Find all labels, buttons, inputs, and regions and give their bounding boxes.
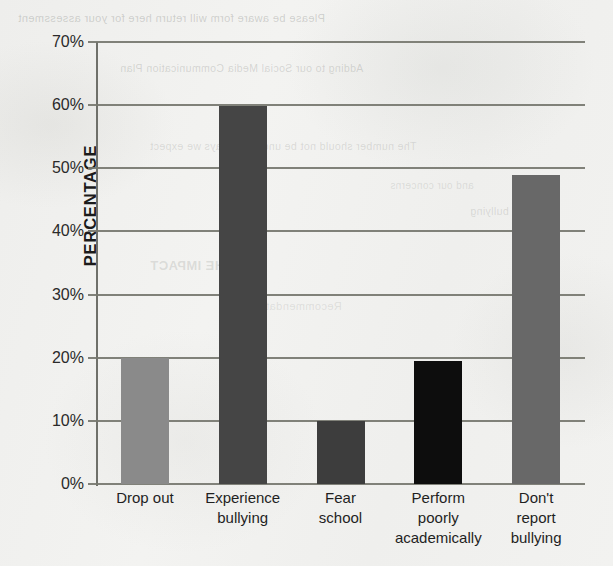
category-label-line: Don't: [480, 488, 592, 508]
x-axis-category-labels: Drop outExperiencebullyingFearschoolPerf…: [96, 488, 585, 566]
y-axis-tick-label: 40%: [26, 222, 84, 240]
category-label-line: academically: [382, 528, 494, 548]
category-label-line: report: [480, 508, 592, 528]
category-label-line: Perform: [382, 488, 494, 508]
gridline: [96, 41, 585, 43]
y-axis-tick-mark: [88, 230, 96, 232]
bar: [121, 358, 169, 484]
bar: [414, 361, 462, 484]
category-label-line: Fear: [285, 488, 397, 508]
y-axis-tick-label: 10%: [26, 412, 84, 430]
y-axis-tick-label: 70%: [26, 33, 84, 51]
y-axis-tick-label: 60%: [26, 96, 84, 114]
y-axis-tick-mark: [88, 357, 96, 359]
bar-chart: PERCENTAGE 0%10%20%30%40%50%60%70% Drop …: [0, 0, 613, 566]
y-axis-tick-mark: [88, 104, 96, 106]
y-axis-tick-label: 30%: [26, 286, 84, 304]
gridline: [96, 104, 585, 106]
y-axis-tick-mark: [88, 483, 96, 485]
y-axis-tick-mark: [88, 167, 96, 169]
bar: [219, 106, 267, 484]
x-axis-category-label: Performpoorlyacademically: [382, 488, 494, 548]
category-label-line: bullying: [187, 508, 299, 528]
category-label-line: bullying: [480, 528, 592, 548]
x-axis-category-label: Drop out: [89, 488, 201, 508]
y-axis-tick-mark: [88, 41, 96, 43]
category-label-line: school: [285, 508, 397, 528]
x-axis-category-label: Fearschool: [285, 488, 397, 528]
x-axis-category-label: Experiencebullying: [187, 488, 299, 528]
y-axis-tick-mark: [88, 420, 96, 422]
bar: [317, 421, 365, 484]
bar: [512, 175, 560, 484]
category-label-line: poorly: [382, 508, 494, 528]
y-axis-tick-mark: [88, 294, 96, 296]
y-axis-tick-label: 50%: [26, 159, 84, 177]
y-axis-tick-label: 0%: [26, 475, 84, 493]
category-label-line: Drop out: [89, 488, 201, 508]
category-label-line: Experience: [187, 488, 299, 508]
x-axis-category-label: Don'treportbullying: [480, 488, 592, 548]
y-axis-tick-labels: 0%10%20%30%40%50%60%70%: [22, 0, 84, 566]
plot-area: [96, 42, 585, 484]
y-axis-tick-label: 20%: [26, 349, 84, 367]
gridline: [96, 167, 585, 169]
